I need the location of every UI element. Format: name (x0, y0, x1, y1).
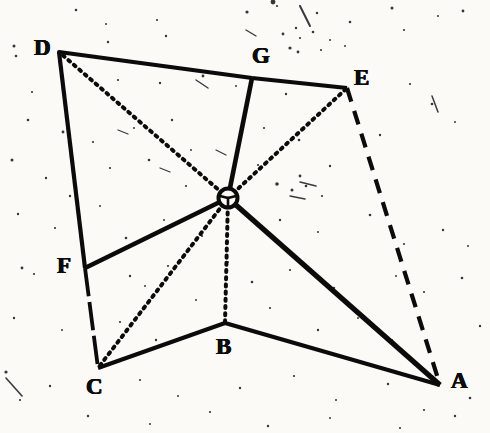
paper-speckle (33, 273, 35, 275)
paper-speckle (148, 159, 151, 162)
paper-speckle (167, 265, 169, 267)
paper-streak (290, 196, 305, 199)
figure-plate: DGEABCF (0, 0, 490, 433)
paper-speckle (149, 423, 151, 425)
paper-speckle (437, 15, 439, 17)
paper-speckle (329, 417, 331, 419)
paper-speckle (209, 411, 211, 413)
paper-speckle (461, 277, 464, 280)
paper-speckle (299, 175, 302, 178)
edge-c-b (98, 323, 225, 368)
edge-d-g (59, 52, 252, 78)
paper-speckle (257, 164, 259, 166)
paper-speckle (159, 82, 161, 84)
paper-speckle (11, 159, 14, 162)
paper-speckle (109, 167, 111, 169)
paper-speckle (317, 329, 319, 331)
paper-speckle (387, 383, 389, 385)
edge-f-c (85, 268, 98, 368)
edge-o-b (225, 198, 228, 323)
paper-speckle (190, 149, 192, 151)
paper-speckle (13, 45, 16, 48)
paper-speckle (454, 121, 456, 123)
paper-speckle (239, 387, 241, 389)
paper-speckle (442, 229, 444, 231)
paper-speckle (297, 51, 300, 54)
paper-speckle (62, 131, 65, 134)
paper-speckle (165, 35, 167, 37)
paper-streak (246, 30, 256, 36)
paper-speckle (92, 141, 94, 143)
paper-speckle (403, 29, 405, 31)
vertex-label-d: D (34, 36, 51, 59)
paper-speckle (45, 177, 47, 179)
paper-speckle (61, 329, 63, 331)
paper-speckle (423, 291, 425, 293)
paper-speckle (17, 213, 19, 215)
paper-speckle (21, 267, 24, 270)
paper-speckle (119, 321, 121, 323)
paper-speckle (316, 12, 318, 14)
paper-speckle (185, 185, 187, 187)
edge-o-f (85, 198, 228, 268)
paper-speckle (177, 395, 179, 397)
paper-speckle (245, 10, 248, 13)
edge-e-a (347, 88, 440, 385)
paper-speckle (305, 185, 308, 188)
paper-streak (118, 130, 128, 134)
paper-speckle (271, 0, 276, 4)
paper-speckle (269, 307, 271, 309)
paper-speckle (479, 325, 481, 327)
paper-speckle (431, 103, 434, 106)
paper-speckle (117, 79, 119, 81)
paper-speckle (87, 415, 89, 417)
paper-speckle (391, 7, 394, 10)
paper-streak (216, 150, 226, 155)
vertex-label-e: E (354, 66, 369, 89)
geometry-figure (0, 0, 490, 433)
paper-speckle (155, 339, 157, 341)
vertex-label-c: C (86, 375, 103, 398)
paper-speckle (379, 134, 381, 136)
paper-speckle (49, 385, 51, 387)
paper-speckle (469, 397, 472, 400)
vertex-label-a: A (451, 369, 468, 392)
paper-speckle (15, 55, 18, 58)
edge-layer (59, 52, 440, 385)
paper-speckle (395, 275, 397, 277)
paper-speckle (107, 41, 109, 43)
vertex-label-f: F (57, 254, 71, 277)
edge-o-c (98, 198, 228, 368)
paper-speckle (295, 27, 297, 29)
paper-speckle (349, 21, 352, 24)
paper-speckle (312, 31, 315, 34)
paper-speckle (156, 19, 158, 21)
paper-speckle (467, 245, 469, 247)
paper-speckle (329, 39, 331, 41)
paper-speckle (267, 425, 269, 427)
paper-speckle (105, 23, 107, 25)
paper-speckle (409, 83, 411, 85)
paper-speckle (163, 219, 165, 221)
center-node-hub (219, 189, 238, 208)
paper-speckle (329, 165, 331, 167)
paper-speckle (54, 227, 56, 229)
paper-speckle (317, 231, 319, 233)
paper-speckle (75, 9, 78, 12)
paper-streak (6, 378, 22, 396)
paper-speckle (125, 237, 128, 240)
paper-streak (300, 6, 310, 26)
paper-speckle (69, 195, 71, 197)
edge-o-a (228, 198, 440, 385)
paper-speckle (298, 139, 301, 142)
paper-speckle (289, 269, 291, 271)
paper-speckle (288, 46, 291, 49)
paper-speckle (423, 409, 425, 411)
paper-speckle (31, 91, 33, 93)
paper-speckle (139, 379, 141, 381)
paper-speckle (291, 189, 294, 192)
paper-speckle (133, 127, 135, 129)
paper-speckle (99, 205, 101, 207)
paper-speckle (282, 33, 285, 36)
paper-speckle (235, 85, 237, 87)
